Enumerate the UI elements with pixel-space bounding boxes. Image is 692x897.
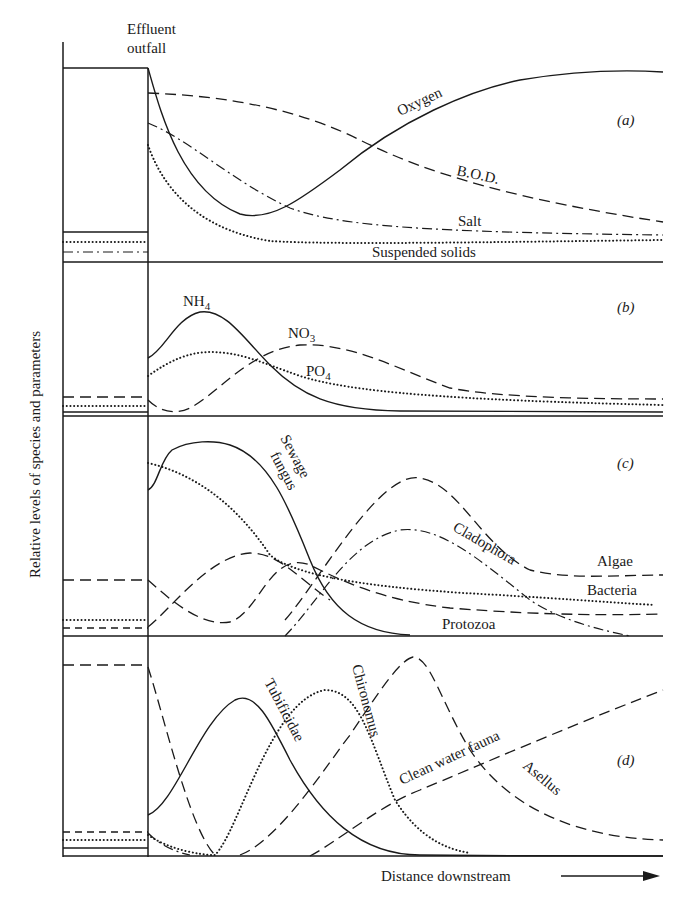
nh4-curve (148, 312, 663, 412)
panel-a-tag: (a) (617, 112, 635, 129)
suspended-solids-label: Suspended solids (372, 244, 476, 260)
bacteria-label: Bacteria (587, 582, 637, 598)
arrow-right-icon (561, 871, 660, 881)
nh4-label: NH4 (183, 293, 211, 312)
panel-b: NH4 NO3 PO4 (b) (63, 293, 663, 412)
panel-a: Oxygen B.O.D. Salt Suspended solids (a) (63, 68, 663, 260)
salt-curve (148, 123, 663, 235)
no3-label: NO3 (288, 325, 316, 344)
cladophora-label: Cladophora (451, 519, 520, 568)
asellus-label: Asellus (520, 757, 565, 798)
panel-d-tag: (d) (617, 752, 635, 769)
oxygen-label: Oxygen (395, 84, 445, 119)
effluent-outfall-label-line1: Effluent (127, 21, 177, 37)
protozoa-curve (148, 563, 663, 623)
x-axis-label: Distance downstream (381, 868, 511, 884)
algae-curve (285, 478, 663, 620)
protozoa-label: Protozoa (442, 616, 496, 632)
bacteria-curve (148, 463, 655, 605)
chironomus-label: Chironomus (349, 663, 384, 739)
po4-label: PO4 (306, 363, 331, 382)
panel-b-tag: (b) (617, 299, 635, 316)
panel-c-tag: (c) (617, 455, 634, 472)
panel-c: Sewage fungus Cladophora Algae Bacteria … (63, 432, 663, 636)
suspended-solids-curve (148, 145, 663, 243)
clean-fauna-initial (148, 833, 190, 855)
oxygen-curve (148, 68, 663, 216)
asellus-initial-drop (148, 667, 215, 855)
po4-curve (148, 352, 663, 405)
bod-label: B.O.D. (455, 162, 500, 187)
clean-water-fauna-label: Clean water fauna (397, 727, 503, 788)
algae-label: Algae (597, 553, 633, 569)
y-axis-label: Relative levels of species and parameter… (27, 331, 43, 578)
salt-label: Salt (458, 213, 482, 229)
effluent-outfall-label-line2: outfall (127, 40, 166, 56)
no3-curve (148, 345, 663, 412)
panel-d: Tubificidae Chironomus Clean water fauna… (63, 657, 663, 856)
tubificidae-label: Tubificidae (261, 676, 307, 744)
pollution-profile-diagram: Oxygen B.O.D. Salt Suspended solids (a) … (0, 0, 692, 897)
